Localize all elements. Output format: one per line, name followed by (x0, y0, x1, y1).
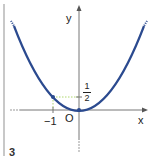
origin-label: O (65, 113, 74, 124)
curve-continuation-left (11, 21, 14, 26)
fraction-denominator: 2 (84, 94, 89, 103)
x-tick-label: −1 (44, 116, 57, 127)
x-axis-arrow-icon (142, 108, 148, 113)
vertex-point (77, 108, 81, 112)
fraction-numerator: 1 (84, 82, 89, 91)
curve-continuation-right (144, 21, 147, 26)
marked-point (51, 95, 55, 99)
y-tick-fraction: 1 2 (83, 82, 91, 103)
y-axis-arrow-icon (77, 5, 82, 11)
x-axis-label: x (138, 115, 144, 126)
parabola-figure: y x O −1 1 2 3 (0, 0, 149, 160)
graph-canvas (0, 0, 149, 160)
y-axis-label: y (66, 13, 72, 24)
panel-number: 3 (9, 146, 15, 158)
